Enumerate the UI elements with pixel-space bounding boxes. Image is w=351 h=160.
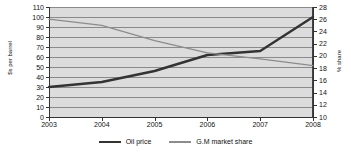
series-line-oil-price (49, 17, 313, 87)
legend-item[interactable]: G.M market share (169, 138, 252, 146)
legend-swatch-gm (169, 141, 191, 142)
legend-label: Oil price (126, 138, 152, 146)
legend-item[interactable]: Oil price (99, 138, 152, 146)
legend: Oil priceG.M market share (0, 138, 351, 146)
line-chart: 0102030405060708090100110101214161820222… (0, 0, 351, 160)
legend-label: G.M market share (196, 138, 252, 146)
legend-swatch-oil (99, 141, 121, 144)
left-axis-title: $s per barrel (7, 30, 13, 86)
right-axis-title: % share (336, 33, 342, 89)
series-layer (0, 0, 351, 160)
